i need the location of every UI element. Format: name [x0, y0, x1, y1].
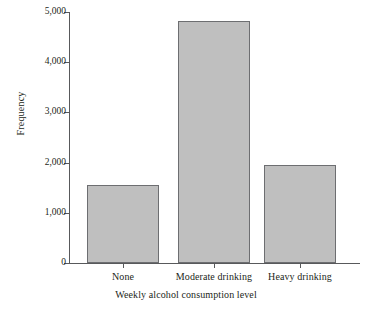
y-axis-line [69, 12, 70, 263]
plot-area: 0 1,000 2,000 3,000 4,000 5,000 N [69, 12, 360, 263]
x-tick-mark-2 [300, 263, 301, 268]
y-axis-title: Frequency [15, 64, 26, 164]
x-tick-label-moderate-drinking: Moderate drinking [176, 271, 252, 282]
bar-chart-figure: Frequency 0 1,000 2,000 3,000 4,000 5,00… [0, 0, 372, 316]
bar-moderate-drinking[interactable] [178, 21, 250, 263]
y-tick-label: 1,000 [45, 206, 66, 219]
x-tick-label-heavy-drinking: Heavy drinking [268, 271, 332, 282]
x-tick-mark-1 [214, 263, 215, 268]
y-tick-label: 4,000 [45, 55, 66, 68]
bar-none[interactable] [87, 185, 159, 263]
y-tick-label: 3,000 [45, 105, 66, 118]
x-tick-mark-0 [123, 263, 124, 268]
x-axis-title: Weekly alcohol consumption level [0, 289, 372, 300]
y-tick-label: 2,000 [45, 156, 66, 169]
y-tick-label: 0 [61, 256, 66, 269]
x-tick-label-none: None [112, 271, 134, 282]
bar-heavy-drinking[interactable] [264, 165, 336, 263]
y-tick-label: 5,000 [45, 5, 66, 18]
